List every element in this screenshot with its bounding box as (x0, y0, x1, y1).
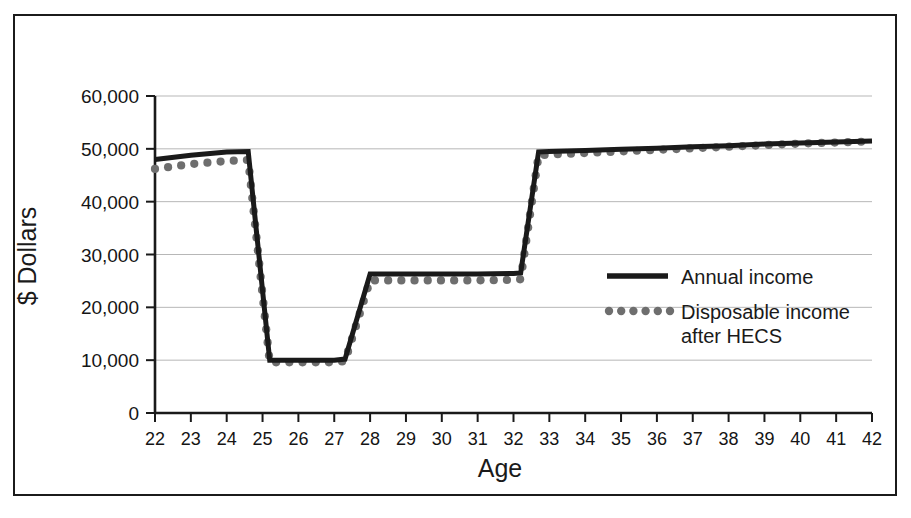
dot-marker (490, 276, 498, 284)
y-tick-label: 10,000 (81, 350, 139, 371)
dot-marker (151, 165, 159, 173)
y-axis-tick-labels: 010,00020,00030,00040,00050,00060,000 (81, 86, 139, 424)
dot-marker (384, 276, 392, 284)
dot-marker (164, 163, 172, 171)
legend-label-annual-income: Annual income (681, 266, 813, 288)
x-tick-label: 38 (719, 429, 739, 449)
x-tick-label: 37 (683, 429, 703, 449)
x-tick-label: 41 (826, 429, 846, 449)
x-axis-ticks (155, 413, 872, 422)
legend: Annual income Disposable income after HE… (605, 266, 850, 347)
x-tick-label: 22 (145, 429, 165, 449)
plot-area-wrapper: 010,00020,00030,00040,00050,00060,000 22… (0, 0, 911, 518)
x-tick-label: 42 (862, 429, 882, 449)
dot-marker (437, 276, 445, 284)
y-tick-label: 60,000 (81, 86, 139, 107)
legend-dot (605, 307, 613, 315)
y-tick-label: 20,000 (81, 297, 139, 318)
y-axis-ticks (146, 96, 155, 413)
x-tick-label: 34 (575, 429, 595, 449)
legend-label-disposable-income: Disposable income (681, 301, 850, 323)
y-tick-label: 0 (128, 403, 139, 424)
x-tick-label: 23 (181, 429, 201, 449)
chart-figure: 010,00020,00030,00040,00050,00060,000 22… (0, 0, 911, 518)
x-tick-label: 33 (539, 429, 559, 449)
legend-dot (666, 307, 674, 315)
x-tick-label: 32 (503, 429, 523, 449)
chart-svg: 010,00020,00030,00040,00050,00060,000 22… (0, 0, 911, 518)
dot-marker (424, 276, 432, 284)
y-tick-label: 50,000 (81, 139, 139, 160)
x-tick-label: 31 (468, 429, 488, 449)
dot-marker (190, 160, 198, 168)
legend-swatch-disposable-income (605, 307, 674, 315)
x-tick-label: 39 (754, 429, 774, 449)
dot-marker (463, 276, 471, 284)
x-tick-label: 35 (611, 429, 631, 449)
x-tick-label: 24 (217, 429, 237, 449)
dot-marker (503, 276, 511, 284)
dot-marker (516, 275, 524, 283)
y-tick-label: 40,000 (81, 192, 139, 213)
dot-marker (230, 157, 238, 165)
x-tick-label: 29 (396, 429, 416, 449)
x-axis-tick-labels: 2223242526272829303132333435363738394041… (145, 429, 882, 449)
dot-marker (177, 161, 185, 169)
y-tick-label: 30,000 (81, 245, 139, 266)
dot-marker (203, 159, 211, 167)
x-axis-title: Age (478, 454, 522, 482)
dot-marker (410, 276, 418, 284)
x-tick-label: 36 (647, 429, 667, 449)
x-tick-label: 40 (790, 429, 810, 449)
dot-marker (216, 157, 224, 165)
legend-dot (629, 307, 637, 315)
legend-dot (654, 307, 662, 315)
dot-marker (450, 276, 458, 284)
legend-dot (617, 307, 625, 315)
x-tick-label: 30 (432, 429, 452, 449)
legend-dot (641, 307, 649, 315)
x-tick-label: 27 (324, 429, 344, 449)
x-tick-label: 25 (253, 429, 273, 449)
x-tick-label: 26 (288, 429, 308, 449)
x-tick-label: 28 (360, 429, 380, 449)
dot-marker (371, 276, 379, 284)
dot-marker (476, 276, 484, 284)
dot-marker (397, 276, 405, 284)
y-axis-title: $ Dollars (13, 207, 41, 306)
legend-label-disposable-income-line2: after HECS (681, 325, 782, 347)
